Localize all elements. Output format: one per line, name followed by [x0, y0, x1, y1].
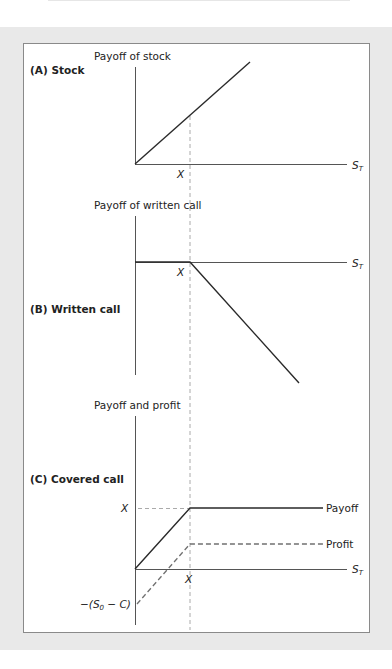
panel-b-x-axis-label: ST: [352, 257, 364, 271]
panel-a-title: (A) Stock: [30, 64, 85, 76]
panel-b-y-axis-label: Payoff of written call: [94, 199, 202, 211]
panel-a-strike-label: X: [176, 168, 185, 180]
panel-b-title: (B) Written call: [30, 303, 120, 315]
panel-c-x-axis-label: ST: [352, 563, 364, 577]
panel-c-title: (C) Covered call: [30, 473, 124, 485]
panel-c-y-axis-label: Payoff and profit: [94, 399, 181, 411]
panel-c-y-strike-label: X: [120, 502, 129, 514]
panel-c: Payoff and profit (C) Covered call X Pay…: [30, 399, 364, 625]
panel-c-payoff-label: Payoff: [326, 502, 359, 514]
panel-b-strike-label: X: [176, 266, 185, 278]
panel-c-strike-label: X: [184, 573, 193, 585]
covered-call-diagram: Payoff of stock (A) Stock X ST Payoff of…: [0, 0, 392, 669]
panel-a: Payoff of stock (A) Stock X ST: [30, 50, 364, 180]
panel-c-y-intercept-label: −(S0 − C): [80, 598, 131, 612]
panel-c-payoff-line: [135, 508, 323, 569]
panel-a-x-axis-label: ST: [352, 159, 364, 173]
panel-a-stock-payoff-line: [135, 62, 250, 164]
panel-c-profit-line: [137, 544, 323, 604]
panel-a-y-axis-label: Payoff of stock: [94, 50, 172, 62]
panel-b-written-call-payoff-line: [135, 262, 299, 383]
panel-b: Payoff of written call (B) Written call …: [30, 199, 364, 383]
panel-c-profit-label: Profit: [326, 538, 353, 550]
